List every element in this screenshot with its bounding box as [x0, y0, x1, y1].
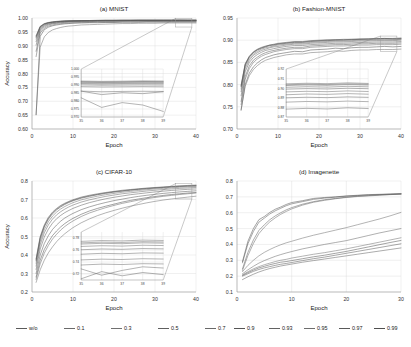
y-tick-label: 0.4 — [226, 241, 233, 247]
inset-x-tick-label: 37 — [120, 119, 124, 123]
y-tick-label: 0.2 — [226, 273, 233, 279]
inset-x-tick-label: 35 — [79, 282, 83, 286]
legend-item-0-9[interactable]: 0.9 — [234, 325, 255, 331]
legend-swatch — [234, 328, 245, 329]
y-tick-label: 0.6 — [21, 215, 28, 221]
y-tick-label: 0.80 — [223, 82, 233, 88]
inset-axes: 0.870.880.890.900.910.923536373839 — [278, 67, 370, 123]
y-tick-label: 0.95 — [18, 29, 28, 35]
inset-x-tick-label: 39 — [161, 119, 165, 123]
y-tick-label: 0.85 — [223, 59, 233, 65]
inset-axes: 0.720.740.760.783536373839 — [73, 232, 165, 286]
chart-panel-mnist: (a) MNIST0.600.650.700.750.800.850.900.9… — [0, 0, 206, 163]
inset-x-tick-label: 38 — [141, 119, 145, 123]
legend-item-0-99[interactable]: 0.99 — [374, 325, 398, 331]
inset-x-tick-label: 38 — [346, 119, 350, 123]
inset-x-tick-label: 37 — [120, 282, 124, 286]
y-tick-label: 1.00 — [18, 15, 28, 21]
series-line — [36, 189, 196, 269]
legend-label: 0.95 — [317, 325, 328, 331]
legend-item-w-o[interactable]: w/o — [16, 325, 37, 331]
inset-y-tick-label: 0.87 — [278, 115, 285, 119]
series-line — [36, 22, 196, 57]
y-tick-label: 0.90 — [18, 43, 28, 49]
x-tick-label: 40 — [193, 133, 199, 139]
y-tick-label: 0.70 — [223, 126, 233, 132]
inset-y-tick-label: 0.72 — [73, 272, 80, 276]
y-tick-label: 0.8 — [226, 178, 233, 184]
inset-y-tick-label: 0.970 — [71, 115, 79, 119]
inset-x-tick-label: 38 — [141, 282, 145, 286]
legend-label: 0.5 — [171, 325, 179, 331]
chart-title: (c) CIFAR-10 — [96, 168, 133, 175]
x-tick-label: 30 — [398, 296, 404, 302]
y-tick-label: 0.1 — [226, 289, 233, 295]
legend-item-0-7[interactable]: 0.7 — [205, 325, 226, 331]
legend-item-0-3[interactable]: 0.3 — [111, 325, 132, 331]
series-line — [242, 212, 401, 271]
series-line — [241, 43, 401, 102]
legend-item-0-5[interactable]: 0.5 — [158, 325, 179, 331]
legend-swatch — [16, 328, 27, 329]
legend-item-0-95[interactable]: 0.95 — [304, 325, 328, 331]
x-tick-label: 40 — [193, 296, 199, 302]
inset-x-tick-label: 36 — [100, 119, 104, 123]
inset-axes: 0.9700.9750.9800.9850.9900.9951.00035363… — [71, 67, 165, 123]
legend-item-0-97[interactable]: 0.97 — [339, 325, 363, 331]
series-line — [242, 240, 401, 275]
inset-y-tick-label: 0.91 — [278, 77, 285, 81]
x-tick-label: 10 — [70, 133, 76, 139]
inset-y-tick-label: 0.985 — [71, 91, 79, 95]
inset-y-tick-label: 0.990 — [71, 83, 79, 87]
y-tick-label: 0.4 — [21, 252, 28, 258]
legend-label: 0.93 — [282, 325, 293, 331]
series-line — [241, 38, 401, 85]
x-axis-label: Epoch — [310, 305, 327, 311]
x-tick-label: 40 — [398, 133, 404, 139]
y-tick-label: 0.8 — [21, 178, 28, 184]
inset-x-tick-label: 36 — [305, 119, 309, 123]
inset-y-tick-label: 0.74 — [73, 260, 80, 264]
y-tick-label: 0.75 — [223, 104, 233, 110]
inset-y-tick-label: 0.92 — [278, 67, 285, 71]
series-line — [242, 194, 401, 263]
series-line — [241, 46, 401, 110]
legend-swatch — [158, 328, 169, 329]
x-tick-label: 20 — [316, 133, 322, 139]
legend-swatch — [269, 328, 280, 329]
x-axis-label: Epoch — [310, 142, 327, 148]
x-tick-label: 20 — [343, 296, 349, 302]
y-tick-label: 0.85 — [18, 57, 28, 63]
chart-title: (d) Imagenette — [299, 168, 340, 175]
inset-x-tick-label: 35 — [79, 119, 83, 123]
legend-label: 0.7 — [218, 325, 226, 331]
y-tick-label: 0.65 — [18, 112, 28, 118]
inset-y-tick-label: 0.90 — [278, 87, 285, 91]
y-tick-label: 0.7 — [226, 194, 233, 200]
inset-x-tick-label: 39 — [161, 282, 165, 286]
figure-root: (a) MNIST0.600.650.700.750.800.850.900.9… — [0, 0, 411, 347]
legend-label: w/o — [29, 325, 37, 331]
inset-x-tick-label: 37 — [325, 119, 329, 123]
chart-title: (b) Fashion-MNIST — [293, 5, 346, 12]
legend-item-0-1[interactable]: 0.1 — [64, 325, 85, 331]
legend-swatch — [64, 328, 75, 329]
legend-label: 0.97 — [352, 325, 363, 331]
x-tick-label: 0 — [31, 296, 34, 302]
x-axis-label: Epoch — [105, 305, 122, 311]
legend-swatch — [374, 328, 385, 329]
y-tick-label: 0.2 — [21, 289, 28, 295]
y-tick-label: 0.3 — [21, 271, 28, 277]
legend-label: 0.1 — [77, 325, 85, 331]
y-axis-label: Accuracy — [4, 61, 10, 86]
y-tick-label: 0.80 — [18, 71, 28, 77]
x-tick-label: 30 — [357, 133, 363, 139]
y-tick-label: 0.90 — [223, 37, 233, 43]
chart-svg-imagenette: (d) Imagenette0.10.20.30.40.50.60.70.801… — [205, 163, 411, 326]
x-tick-label: 20 — [111, 296, 117, 302]
legend-swatch — [205, 328, 216, 329]
legend-label: 0.9 — [247, 325, 255, 331]
inset-x-tick-label: 35 — [284, 119, 288, 123]
legend-label: 0.99 — [387, 325, 398, 331]
legend-item-0-93[interactable]: 0.93 — [269, 325, 293, 331]
